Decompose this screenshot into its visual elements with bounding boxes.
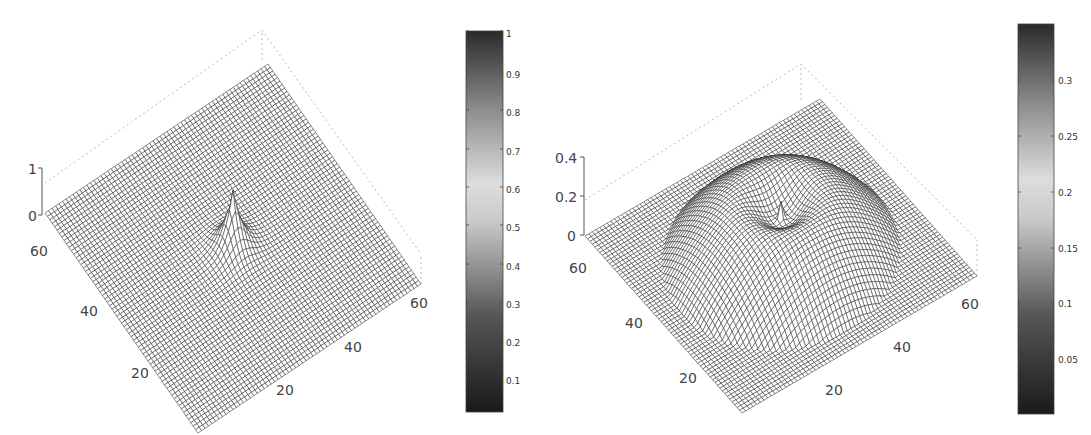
colorbar-tick-label: 0.3 [506,300,520,310]
colorbar: 1 0.9 0.8 0.7 0.6 0.5 0.4 0.3 0.2 0.1 [466,29,521,412]
colorbar-gradient [466,31,503,412]
y-tick-label: 60 [569,260,587,276]
colorbar-tick-label: 0.6 [506,185,521,195]
colorbar-tick-label: 0.4 [506,262,521,272]
colorbar-tick-label: 0.3 [1058,76,1072,86]
x-tick-label: 60 [410,295,428,311]
z-tick-label: 0.2 [555,189,577,205]
right-surface-canvas: 0.4 0.2 0 60 40 20 20 40 60 0.3 0.25 0.2… [545,0,1091,435]
y-tick-label: 20 [679,370,697,386]
left-surface-plot: 1 0 60 40 20 20 40 60 1 0.9 0.8 0.7 0.6 … [0,0,540,435]
surface-mesh [45,64,421,433]
y-tick-label: 60 [30,243,48,259]
z-tick-label: 0.4 [555,150,577,166]
colorbar-tick-label: 0.25 [1058,132,1078,142]
colorbar-tick-label: 0.5 [506,223,520,233]
z-axis: 0.4 0.2 0 [555,150,584,244]
x-tick-label: 40 [344,339,362,355]
colorbar-tick-label: 0.05 [1058,355,1078,365]
z-tick-label: 1 [28,161,37,177]
x-tick-label: 20 [825,382,843,398]
colorbar: 0.3 0.25 0.2 0.15 0.1 0.05 [1018,24,1078,414]
surface-mesh [585,99,977,413]
y-tick-label: 40 [80,303,98,319]
colorbar-tick-label: 0.9 [506,70,521,80]
colorbar-tick-label: 0.15 [1058,244,1078,254]
colorbar-tick-label: 0.7 [506,147,520,157]
colorbar-tick-label: 0.2 [506,338,520,348]
x-tick-label: 20 [276,382,294,398]
colorbar-gradient [1018,24,1054,414]
x-tick-label: 60 [961,296,979,312]
z-tick-label: 0 [567,228,576,244]
colorbar-tick-label: 0.1 [506,376,520,386]
right-surface-plot: 0.4 0.2 0 60 40 20 20 40 60 0.3 0.25 0.2… [545,0,1091,435]
colorbar-tick-label: 0.2 [1058,188,1072,198]
y-tick-label: 20 [131,365,149,381]
x-tick-label: 40 [893,339,911,355]
colorbar-tick-label: 1 [506,29,512,39]
y-tick-label: 40 [625,315,643,331]
colorbar-tick-label: 0.1 [1058,299,1072,309]
left-surface-canvas: 1 0 60 40 20 20 40 60 1 0.9 0.8 0.7 0.6 … [0,0,540,435]
z-axis: 1 0 [28,161,42,224]
colorbar-tick-label: 0.8 [506,108,521,118]
z-tick-label: 0 [28,208,37,224]
